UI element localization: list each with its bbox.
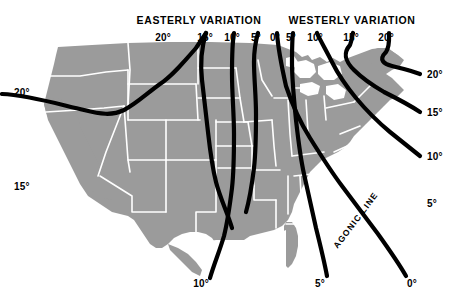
top-label-20-east: 20° — [155, 32, 171, 43]
left-label-15-east: 15° — [14, 181, 30, 192]
bottom-label-10-east: 10° — [193, 278, 209, 289]
texas-wedge — [168, 244, 202, 276]
magnetic-variation-map: EASTERLY VARIATION WESTERLY VARIATION 20… — [0, 0, 462, 307]
map-canvas: EASTERLY VARIATION WESTERLY VARIATION 20… — [0, 0, 462, 307]
easterly-variation-heading: EASTERLY VARIATION — [137, 14, 262, 26]
westerly-variation-heading: WESTERLY VARIATION — [288, 14, 415, 26]
left-label-20-east: 20° — [14, 87, 30, 98]
right-label-5-west: 5° — [427, 198, 437, 209]
top-label-10-west: 10° — [307, 32, 323, 43]
top-label-10-east: 10° — [224, 32, 240, 43]
top-label-20-west: 20° — [378, 32, 394, 43]
top-label-15-east: 15° — [197, 32, 213, 43]
right-label-20-west: 20° — [427, 69, 443, 80]
bottom-label-5-west: 5° — [315, 278, 325, 289]
top-label-5-west: 5° — [286, 32, 296, 43]
florida-peninsula — [284, 222, 298, 268]
pacific-southwest — [0, 200, 150, 307]
bottom-label-0-agonic: 0° — [407, 278, 417, 289]
right-label-10-west: 10° — [427, 151, 443, 162]
right-label-15-west: 15° — [427, 107, 443, 118]
top-label-0-agonic: 0° — [270, 32, 280, 43]
top-label-15-west: 15° — [343, 32, 359, 43]
top-label-5-east: 5° — [251, 32, 261, 43]
